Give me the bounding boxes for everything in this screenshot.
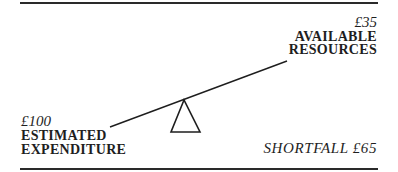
available-amount: £35 [355, 15, 378, 30]
balance-beam [110, 61, 287, 127]
shortfall-label: SHORTFALL £65 [263, 142, 377, 155]
fulcrum-triangle-icon [171, 100, 200, 132]
expenditure-amount: £100 [21, 114, 51, 129]
bottom-rule [20, 168, 378, 170]
available-label-line2: RESOURCES [289, 43, 377, 56]
expenditure-label-line1: ESTIMATED [21, 129, 107, 142]
expenditure-label-line2: EXPENDITURE [21, 143, 126, 156]
